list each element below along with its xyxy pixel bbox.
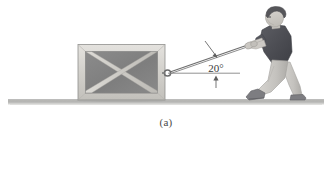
lower-angle-arrow (213, 76, 218, 88)
ground-surface (8, 100, 324, 105)
person-front-leg (258, 60, 288, 95)
person-pulling-rope (244, 6, 306, 100)
figure-caption: (a) (0, 116, 332, 128)
physics-scene-illustration: 20° (0, 0, 332, 175)
person-back-shoe (290, 95, 306, 101)
crate (77, 45, 165, 103)
angle-label: 20° (208, 62, 223, 74)
figure-container: 20° (0, 0, 332, 175)
upper-angle-arrow (205, 41, 218, 58)
person-eye (269, 16, 271, 18)
angle-annotation: 20° (168, 41, 240, 88)
